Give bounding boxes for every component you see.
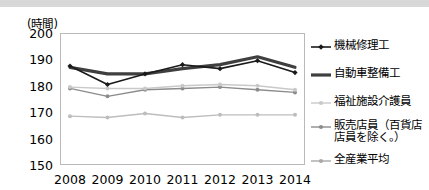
legend-marker-icon [311,67,331,79]
chart-legend: 機械修理工自動車整備工福祉施設介護員販売店員（百貨店店員を除く。）全産業平均 [311,33,429,165]
legend-label-line2: 店員を除く。） [334,131,422,143]
legend-label: 機械修理工 [334,39,389,51]
legend-label: 福祉施設介護員 [334,95,411,107]
data-point-marker [181,84,185,88]
legend-item-1[interactable]: 機械修理工 [311,39,389,51]
x-axis-tick: 2012 [204,172,236,187]
data-point-marker [218,113,222,117]
data-point-marker [180,62,185,67]
data-point-marker [105,82,110,87]
legend-label: 販売店員（百貨店店員を除く。） [334,119,422,143]
data-point-marker [293,88,297,92]
line-chart: (時間) 200190180170160150 機械修理工自動車整備工福祉施設介… [0,0,429,190]
legend-marker-icon [311,119,331,131]
data-point-marker [218,82,222,86]
legend-marker-icon [311,153,331,165]
data-point-marker [68,85,72,89]
data-point-marker [318,44,324,50]
data-point-marker [319,125,323,129]
x-axis-tick: 2010 [129,172,161,187]
data-point-marker [143,86,147,90]
x-axis-tick: 2009 [92,172,124,187]
data-point-marker [256,84,260,88]
data-point-marker [181,115,185,119]
legend-marker-icon [311,39,331,51]
legend-marker-icon [311,95,331,107]
data-point-marker [68,114,72,118]
legend-label: 自動車整備工 [334,67,400,79]
data-point-marker [319,101,323,105]
x-axis-tick: 2008 [54,172,86,187]
data-point-marker [293,113,297,117]
data-point-marker [106,115,110,119]
x-axis-tick: 2011 [167,172,199,187]
legend-item-2[interactable]: 自動車整備工 [311,67,400,79]
data-point-marker [217,66,222,71]
x-axis-tick: 2013 [242,172,274,187]
data-point-marker [319,159,323,163]
legend-item-4[interactable]: 販売店員（百貨店店員を除く。） [311,119,422,143]
legend-label: 全産業平均 [334,153,389,165]
data-point-marker [106,94,110,98]
data-point-marker [256,113,260,117]
data-point-marker [143,112,147,116]
data-point-marker [292,70,297,75]
legend-item-3[interactable]: 福祉施設介護員 [311,95,411,107]
series-5 [68,112,297,120]
x-axis-tick: 2014 [279,172,311,187]
data-point-marker [256,88,260,92]
legend-item-5[interactable]: 全産業平均 [311,153,389,165]
